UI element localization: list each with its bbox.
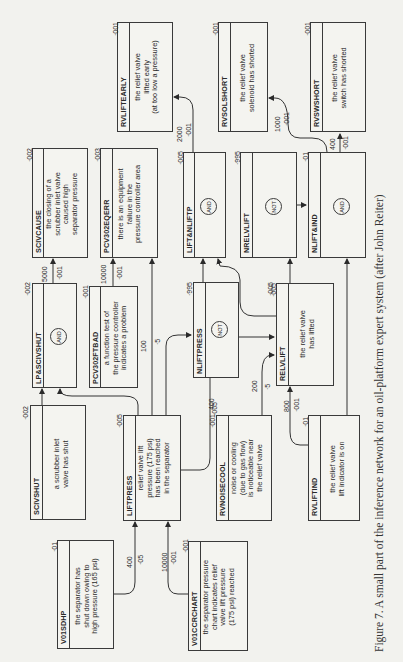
prior-prob: ·01 [302, 152, 309, 162]
node-nliftpress: NLIFTPRESS NOT [193, 282, 239, 378]
node-name: NRELVLIFT [242, 213, 251, 253]
link-weight: ·001 [293, 398, 300, 412]
node-v01ccrchart: V01CCRCHART the separator pressure chart… [188, 541, 248, 651]
link-weight: ·001 [56, 266, 63, 280]
node-liftnliftp: LIFT&NLIFTP AND [183, 152, 226, 258]
not-gate-icon: NOT [265, 198, 282, 215]
link-weight: 200 [251, 380, 258, 392]
node-v01sdhp: V01SDHP the separator has shut down owin… [57, 540, 114, 649]
node-desc-line: (175 psi) reached [228, 550, 237, 644]
node-desc-line: lift indicator is on [338, 428, 347, 510]
prior-prob: ·005 [177, 151, 184, 165]
link-weight: ·5 [264, 384, 271, 390]
node-rvsolshort: RVSOLSHORT the relief valve solenoid has… [218, 22, 268, 132]
node-name: PCV302FTBAD [91, 332, 100, 384]
node-name: RVNOISECOOL [218, 462, 227, 516]
node-nliftind: NLIFT&IND AND [308, 152, 366, 258]
node-desc-line: high pressure (165 psi) [91, 551, 100, 641]
node-desc-line: in the separator [163, 428, 172, 508]
node-name: NLIFT&IND [310, 214, 319, 253]
link-weight: 100 [140, 340, 147, 352]
node-liftpress: LIFTPRESS relief valve lift pressure (17… [123, 415, 181, 521]
node-relvlift: RELVLIFT the relief valve has lifted [276, 283, 334, 386]
link-weight: 10000 [161, 553, 168, 572]
node-name: SCIVCAUSE [34, 210, 43, 253]
link-weight: ·5 [154, 339, 161, 345]
link-weight: ·005 [267, 282, 274, 296]
node-rvnoisecool: RVNOISECOOL noise or cooling (due to gas… [216, 415, 272, 521]
prior-prob: ·005 [116, 414, 123, 428]
link-weight: ·001 [342, 136, 349, 150]
node-scivcause: SCIVCAUSE the closing of a scrubber inle… [32, 148, 88, 258]
node-pcv302ftbad: PCV302FTBAD a function test of the press… [89, 286, 138, 388]
node-name: SCIVSHUT [32, 478, 41, 515]
prior-prob: ·002 [24, 282, 31, 296]
figure-caption: Figure 7. A small part of the inference … [373, 194, 385, 652]
link-weight: ·005 [211, 402, 218, 416]
link-weight: 1000 [274, 116, 281, 132]
node-desc-line: the relief valve [256, 428, 265, 508]
node-scivshut: SCIVSHUT a scrubber inlet valve has shut [30, 405, 86, 520]
link-weight: ·001 [185, 123, 192, 137]
node-desc-line: solenoid has shorted [248, 33, 257, 123]
node-name: RVSWSHORT [312, 80, 321, 128]
link-weight: 2000 [176, 126, 183, 142]
link-weight: 800 [283, 400, 290, 412]
prior-prob: ·002 [22, 406, 29, 420]
link-weight: ·05 [137, 555, 144, 565]
prior-prob: ·01 [51, 542, 58, 552]
prior-prob: ·001 [304, 22, 311, 36]
prior-prob: ·001 [209, 414, 216, 428]
node-name: NLIFTPRESS [195, 328, 204, 374]
node-desc-line: switch has shorted [340, 33, 349, 123]
node-desc-line: indicates a problem [120, 291, 129, 385]
node-rvswshort: RVSWSHORT the relief valve switch has sh… [310, 22, 366, 132]
prior-prob: ·001 [182, 539, 189, 553]
node-nrelvlift: NRELVLIFT NOT [240, 152, 297, 258]
node-desc-line: (at too low a pressure) [151, 37, 160, 117]
node-name: RVLIFTIND [310, 478, 319, 516]
node-name: RVSOLSHORT [220, 76, 229, 127]
link-liftpress-nliftpress [166, 335, 191, 415]
prior-prob: ·995 [234, 151, 241, 165]
node-name: PCV302EQERR [102, 200, 111, 253]
node-rvliftearly: RVLIFTEARLY the relief valve lifted earl… [117, 22, 173, 132]
node-name: V01CCRCHART [190, 591, 199, 646]
prior-prob: ·002 [26, 148, 33, 162]
node-name: RVLIFTEARLY [119, 77, 128, 127]
node-desc-line: has lifted [308, 294, 317, 374]
link-weight: ·001 [170, 551, 177, 565]
link-weight: 5000 [41, 266, 48, 282]
link-weight: ·001 [116, 266, 123, 280]
prior-prob: ·003 [94, 148, 101, 162]
and-gate-icon: AND [333, 198, 350, 215]
node-name: RELVLIFT [278, 346, 287, 381]
and-gate-icon: AND [200, 198, 217, 215]
node-name: LP&SCIVSHUT [34, 332, 43, 384]
node-rvliftind: RVLIFTIND the relief valve lift indicato… [308, 415, 360, 521]
and-gate-icon: AND [50, 328, 67, 345]
link-weight: ·001 [283, 112, 290, 126]
node-lpscivshut: LP&SCIVSHUT AND [32, 283, 77, 388]
prior-prob: ·01 [302, 417, 309, 427]
link-weight: 10000 [100, 265, 107, 284]
node-desc-line: pressure controller area [134, 155, 143, 253]
node-name: LIFT&NLIFTP [185, 206, 194, 253]
not-gate-icon: NOT [211, 321, 228, 338]
node-name: V01SDHP [59, 611, 68, 644]
link-weight: 400 [126, 556, 133, 568]
prior-prob: ·001 [82, 285, 89, 299]
node-pcv302eqerr: PCV302EQERR there is an equipment failur… [100, 148, 158, 258]
node-desc-line: separator pressure [71, 159, 80, 249]
node-name: LIFTPRESS [125, 476, 134, 516]
node-desc-line: valve has shut [62, 426, 71, 502]
link-weight: 400 [329, 138, 336, 150]
prior-prob: ·001 [112, 22, 119, 36]
prior-prob: ·001 [212, 22, 219, 36]
prior-prob: ·995 [186, 282, 193, 296]
